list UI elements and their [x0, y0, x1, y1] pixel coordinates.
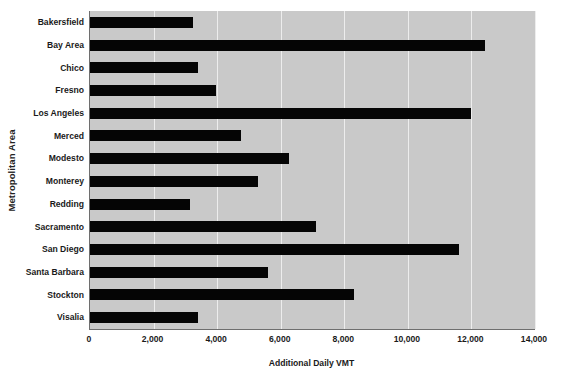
x-axis-tick-label: 14,000	[521, 334, 547, 344]
y-axis-title-text: Metropolitan Area	[6, 129, 17, 211]
x-axis-tick-label: 0	[87, 334, 92, 344]
plot-area	[89, 11, 535, 330]
x-axis-tick-label: 4,000	[205, 334, 227, 344]
bar	[90, 244, 459, 255]
bar-row	[90, 79, 535, 102]
bar-row	[90, 34, 535, 57]
y-axis-tick-label: Visalia	[22, 306, 88, 329]
bar	[90, 176, 258, 187]
bar-row	[90, 170, 535, 193]
bar	[90, 153, 289, 164]
y-axis-tick-label: Los Angeles	[22, 102, 88, 125]
bar-row	[90, 147, 535, 170]
bar	[90, 312, 198, 323]
bar	[90, 40, 485, 51]
y-axis-tick-label: Modesto	[22, 147, 88, 170]
bar-row	[90, 238, 535, 261]
y-axis-tick-label: Redding	[22, 193, 88, 216]
x-axis-title: Additional Daily VMT	[89, 358, 534, 368]
bar-row	[90, 306, 535, 329]
y-axis-tick-label: Bay Area	[22, 34, 88, 57]
bar	[90, 130, 241, 141]
bar	[90, 221, 316, 232]
y-axis-tick-labels: BakersfieldBay AreaChicoFresnoLos Angele…	[22, 11, 88, 329]
bar-row	[90, 193, 535, 216]
bar	[90, 108, 471, 119]
y-axis-tick-label: San Diego	[22, 238, 88, 261]
y-axis-tick-label: Monterey	[22, 170, 88, 193]
y-axis-tick-label: Merced	[22, 125, 88, 148]
bar-row	[90, 215, 535, 238]
gridline	[535, 11, 536, 329]
y-axis-tick-label: Chico	[22, 56, 88, 79]
bar	[90, 17, 193, 28]
y-axis-title: Metropolitan Area	[0, 0, 22, 340]
bar-row	[90, 11, 535, 34]
bar	[90, 289, 354, 300]
bar	[90, 199, 190, 210]
bar-row	[90, 284, 535, 307]
bar-row	[90, 56, 535, 79]
x-axis-tick-labels: 02,0004,0006,0008,00010,00012,00014,000	[0, 334, 567, 350]
x-axis-tick-label: 8,000	[333, 334, 355, 344]
bar-chart-figure: Metropolitan Area BakersfieldBay AreaChi…	[0, 0, 567, 382]
bar	[90, 267, 268, 278]
x-axis-tick-label: 6,000	[269, 334, 291, 344]
bars-layer	[90, 11, 535, 329]
bar	[90, 85, 216, 96]
bar	[90, 62, 198, 73]
x-axis-tick-label: 2,000	[142, 334, 164, 344]
bar-row	[90, 261, 535, 284]
x-axis-tick-label: 10,000	[394, 334, 420, 344]
y-axis-tick-label: Fresno	[22, 79, 88, 102]
bar-row	[90, 102, 535, 125]
bar-row	[90, 125, 535, 148]
y-axis-tick-label: Bakersfield	[22, 11, 88, 34]
y-axis-tick-label: Sacramento	[22, 215, 88, 238]
y-axis-tick-label: Stockton	[22, 284, 88, 307]
y-axis-tick-label: Santa Barbara	[22, 261, 88, 284]
x-axis-tick-label: 12,000	[457, 334, 483, 344]
